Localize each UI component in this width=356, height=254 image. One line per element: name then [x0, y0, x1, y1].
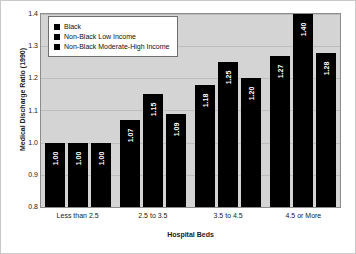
- bar: 1.15: [143, 94, 163, 207]
- bar-group: 1.181.251.20: [191, 14, 266, 207]
- bar-value-label: 1.00: [75, 151, 82, 165]
- legend-label: Non-Black Low Income: [64, 32, 136, 41]
- legend-swatch-icon: [54, 24, 60, 30]
- y-tick-label: 0.8: [14, 203, 38, 210]
- bar: 1.09: [166, 114, 186, 207]
- legend: BlackNon-Black Low IncomeNon-Black Moder…: [48, 16, 178, 57]
- legend-item: Non-Black Moderate-High Income: [54, 42, 169, 51]
- bar: 1.25: [218, 62, 238, 207]
- bar-value-label: 1.20: [247, 87, 254, 101]
- bar: 1.27: [270, 56, 290, 207]
- y-tick-label: 1.2: [14, 74, 38, 81]
- legend-swatch-icon: [54, 44, 60, 50]
- bar: 1.00: [91, 143, 111, 207]
- x-tick-label: 3.5 to 4.5: [191, 212, 266, 219]
- bar-group: 1.271.401.28: [265, 14, 340, 207]
- y-tick-label: 1.3: [14, 42, 38, 49]
- legend-swatch-icon: [54, 34, 60, 40]
- bar: 1.40: [293, 14, 313, 207]
- bar-value-label: 1.15: [150, 103, 157, 117]
- x-tick-label: 4.5 or More: [266, 212, 341, 219]
- bar-value-label: 1.27: [276, 65, 283, 79]
- bar: 1.20: [241, 78, 261, 207]
- bar-value-label: 1.07: [127, 129, 134, 143]
- x-axis-tick-labels: Less than 2.52.5 to 3.53.5 to 4.54.5 or …: [40, 212, 341, 219]
- legend-item: Non-Black Low Income: [54, 32, 169, 41]
- y-tick-label: 0.9: [14, 170, 38, 177]
- x-tick-label: Less than 2.5: [40, 212, 115, 219]
- y-tick-label: 1.0: [14, 138, 38, 145]
- bar-value-label: 1.00: [98, 151, 105, 165]
- bar-chart-figure: Medical Discharge Ratio (1990) 0.80.91.0…: [0, 0, 356, 254]
- bar: 1.07: [120, 120, 140, 207]
- bar-value-label: 1.18: [201, 93, 208, 107]
- bar-value-label: 1.25: [224, 71, 231, 85]
- bar-value-label: 1.00: [52, 151, 59, 165]
- y-tick-label: 1.1: [14, 106, 38, 113]
- x-tick-label: 2.5 to 3.5: [115, 212, 190, 219]
- legend-item: Black: [54, 22, 169, 31]
- bar: 1.00: [68, 143, 88, 207]
- x-axis-title: Hospital Beds: [40, 231, 341, 238]
- y-axis-tick-labels: 0.80.91.01.11.21.31.4: [14, 13, 38, 208]
- legend-label: Black: [64, 22, 81, 31]
- bar-value-label: 1.40: [299, 23, 306, 37]
- y-tick-label: 1.4: [14, 10, 38, 17]
- legend-label: Non-Black Moderate-High Income: [64, 42, 169, 51]
- bar-value-label: 1.09: [173, 122, 180, 136]
- bar: 1.28: [316, 53, 336, 207]
- bar: 1.18: [195, 85, 215, 207]
- bar-value-label: 1.28: [322, 61, 329, 75]
- bar: 1.00: [45, 143, 65, 207]
